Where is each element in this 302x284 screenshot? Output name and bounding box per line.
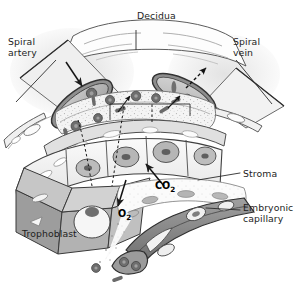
label-stroma: Stroma [243, 168, 277, 179]
label-spiral-vein: Spiral vein [233, 36, 260, 58]
co2-text: CO [155, 180, 170, 191]
label-o2: O2 [118, 208, 131, 222]
o2-text: O [118, 208, 126, 219]
placental-exchange-diagram: Decidua Spiral artery Spiral vein Stroma… [0, 0, 302, 284]
co2-subscript: 2 [170, 185, 175, 194]
label-trophoblast: Trophoblast [22, 228, 77, 239]
label-embryonic-capillary: Embryonic capillary [243, 202, 293, 224]
label-co2: CO2 [155, 180, 175, 194]
o2-subscript: 2 [126, 213, 131, 222]
label-decidua: Decidua [137, 10, 176, 21]
label-spiral-artery: Spiral artery [8, 36, 37, 58]
